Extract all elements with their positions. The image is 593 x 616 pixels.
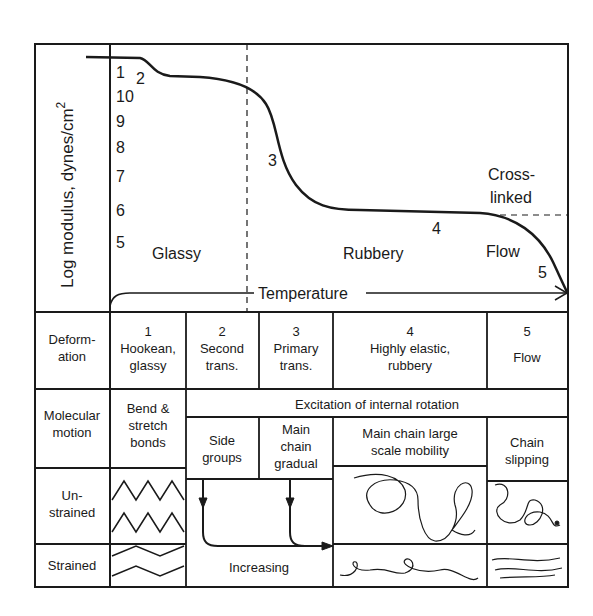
chain-strained-slip-3: [500, 575, 555, 578]
crosslinked-label-2: linked: [490, 189, 532, 206]
arrow-head-down-2: [286, 498, 294, 508]
deform-1-l1: Hookean,: [120, 341, 176, 356]
deform-3-l2: trans.: [280, 358, 313, 373]
deform-5-l1: Flow: [513, 350, 541, 365]
deform-5-num: 5: [523, 324, 530, 339]
y-tick-9: 9: [116, 113, 125, 130]
deform-4-l2: rubbery: [388, 358, 433, 373]
deform-4-l1: Highly elastic,: [370, 341, 450, 356]
crosslinked-label-1: Cross-: [488, 166, 535, 183]
increasing-label: Increasing: [229, 560, 289, 575]
curve-marker-2: 2: [136, 70, 145, 87]
row-header-unstrained-1: Un-: [62, 488, 83, 503]
y-tick-7: 7: [116, 168, 125, 185]
tangled-chain-unstrained: [495, 484, 560, 526]
row-header-motion-2: motion: [52, 425, 91, 440]
region-glassy: Glassy: [152, 245, 201, 262]
region-rubbery: Rubbery: [343, 245, 403, 262]
zigzag-unstrained-top: [112, 481, 184, 500]
curve-marker-4: 4: [432, 220, 441, 237]
deform-3-num: 3: [292, 324, 299, 339]
y-tick-5: 5: [116, 234, 125, 251]
y-tick-8: 8: [116, 139, 125, 156]
y-axis-label: Log modulus, dynes/cm2: [54, 101, 77, 288]
excitation-label: Excitation of internal rotation: [295, 397, 459, 412]
curve-marker-3: 3: [268, 152, 277, 169]
side-groups-l1: Side: [209, 433, 235, 448]
chain-strained-large: [340, 559, 478, 580]
y-tick-10: 10: [116, 88, 134, 105]
region-flow: Flow: [486, 243, 520, 260]
y-ticks: 1 2 10 9 8 7 6 5 3 4 5 Glassy Rubbery Fl…: [116, 64, 547, 302]
deform-2-l2: trans.: [206, 358, 239, 373]
outer-frame: [35, 44, 568, 587]
chain-slipping-l1: Chain: [510, 435, 544, 450]
main-chain-large-l2: scale mobility: [371, 443, 450, 458]
deform-2-l1: Second: [200, 341, 244, 356]
y-tick-6: 6: [116, 202, 125, 219]
polymer-modulus-diagram: Log modulus, dynes/cm2 1 2 10 9 8 7 6 5 …: [0, 0, 593, 616]
row-header-motion-1: Molecular: [44, 408, 101, 423]
zigzag-unstrained-bottom: [112, 513, 184, 532]
deform-2-num: 2: [218, 324, 225, 339]
chain-strained-slip-1: [492, 558, 560, 561]
deform-4-num: 4: [406, 324, 413, 339]
x-axis-label: Temperature: [258, 285, 348, 302]
deform-1-num: 1: [144, 324, 151, 339]
row-header-deformation-2: ation: [58, 349, 86, 364]
row-header-deformation-1: Deform-: [49, 332, 96, 347]
curve-marker-1: 1: [116, 64, 125, 81]
zigzag-strained-top: [112, 546, 184, 556]
chain-end-dot: [555, 521, 559, 525]
bend-l3: bonds: [130, 435, 166, 450]
side-groups-l2: groups: [202, 450, 242, 465]
chain-strained-slip-2: [495, 568, 562, 571]
bend-l2: stretch: [128, 418, 167, 433]
arrow-head-down-1: [199, 498, 207, 508]
zigzag-strained-bottom: [112, 566, 184, 576]
chain-slipping-l2: slipping: [505, 452, 549, 467]
bend-l1: Bend &: [127, 401, 170, 416]
deform-3-l1: Primary: [274, 341, 319, 356]
increasing-arrow-main-chain: [290, 479, 305, 546]
curve-marker-5: 5: [538, 264, 547, 281]
main-chain-large-l1: Main chain large: [362, 426, 457, 441]
main-chain-gradual-l2: chain: [280, 439, 311, 454]
main-chain-gradual-l1: Main: [282, 422, 310, 437]
row-header-unstrained-2: strained: [49, 505, 95, 520]
deform-1-l2: glassy: [130, 358, 167, 373]
row-header-strained: Strained: [48, 558, 96, 573]
temperature-axis: [110, 293, 254, 306]
main-chain-gradual-l3: gradual: [274, 456, 317, 471]
arrow-head-right: [322, 542, 333, 550]
increasing-arrow-side-groups: [203, 479, 330, 546]
coiled-chain-unstrained: [354, 474, 475, 541]
